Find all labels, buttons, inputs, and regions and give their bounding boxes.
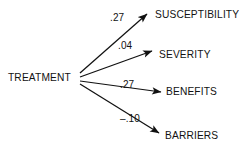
- node-label-barriers: BARRIERS: [165, 130, 218, 141]
- path-diagram-canvas: TREATMENT SUSCEPTIBILITY SEVERITY BENEFI…: [0, 0, 251, 152]
- coefficient-label-susceptibility: .27: [110, 12, 124, 23]
- node-label-benefits: BENEFITS: [166, 86, 217, 97]
- node-label-severity: SEVERITY: [159, 49, 211, 60]
- coefficient-label-severity: .04: [118, 40, 132, 51]
- node-label-susceptibility: SUSCEPTIBILITY: [155, 9, 239, 20]
- coefficient-label-barriers: –.10: [120, 113, 140, 124]
- coefficient-label-benefits: .27: [120, 79, 134, 90]
- arrow-treatment-barriers: [80, 84, 159, 133]
- node-label-treatment: TREATMENT: [8, 72, 71, 83]
